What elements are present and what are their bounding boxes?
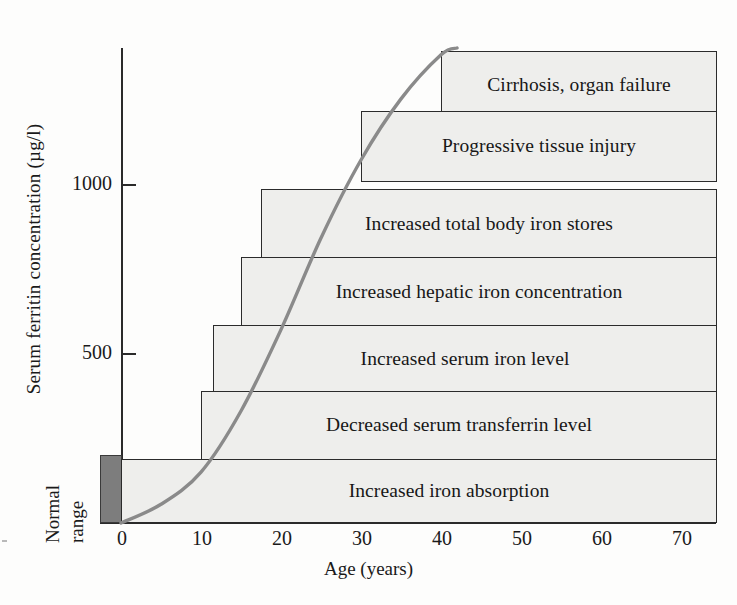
chart-figure: Serum ferritin concentration (µg/l) Age … — [0, 0, 737, 605]
y-tick-1000-mark — [123, 184, 136, 186]
x-tick-0-label: 0 — [102, 527, 142, 550]
bar-label: Decreased serum transferrin level — [326, 414, 592, 436]
bar-label: Progressive tissue injury — [442, 135, 636, 157]
y-tick-500-mark — [123, 353, 136, 355]
bar-cirrhosis-organ-failure: Cirrhosis, organ failure — [441, 51, 717, 119]
y-tick-1000-label: 1000 — [42, 173, 112, 193]
y-tick-500-label: 500 — [42, 342, 112, 362]
bar-label: Increased hepatic iron concentration — [336, 281, 623, 303]
bar-label: Increased iron absorption — [349, 480, 550, 502]
x-tick-60-label: 60 — [582, 527, 622, 550]
normal-range-block — [100, 455, 122, 523]
x-tick-30-label: 30 — [342, 527, 382, 550]
normal-range-label-line1: Normal — [43, 485, 62, 543]
scan-edge-mark — [2, 540, 7, 542]
x-axis-title: Age (years) — [0, 558, 737, 580]
bar-increased-hepatic-iron-concentration: Increased hepatic iron concentration — [241, 257, 717, 328]
bar-label: Cirrhosis, organ failure — [487, 74, 670, 96]
bar-label: Increased serum iron level — [361, 348, 570, 370]
normal-range-label-line2: range — [67, 501, 86, 543]
x-tick-10-label: 10 — [182, 527, 222, 550]
bar-increased-total-body-iron-stores: Increased total body iron stores — [261, 189, 717, 260]
x-tick-20-label: 20 — [262, 527, 302, 550]
bar-increased-iron-absorption: Increased iron absorption — [121, 459, 717, 523]
bar-progressive-tissue-injury: Progressive tissue injury — [361, 111, 717, 182]
bar-decreased-serum-transferrin-level: Decreased serum transferrin level — [201, 391, 717, 461]
bar-label: Increased total body iron stores — [365, 213, 613, 235]
x-tick-50-label: 50 — [502, 527, 542, 550]
y-axis-title: Serum ferritin concentration (µg/l) — [23, 59, 45, 459]
x-tick-70-label: 70 — [662, 527, 702, 550]
x-tick-40-label: 40 — [422, 527, 462, 550]
bar-increased-serum-iron-level: Increased serum iron level — [213, 325, 717, 395]
y-axis-line — [121, 48, 123, 524]
